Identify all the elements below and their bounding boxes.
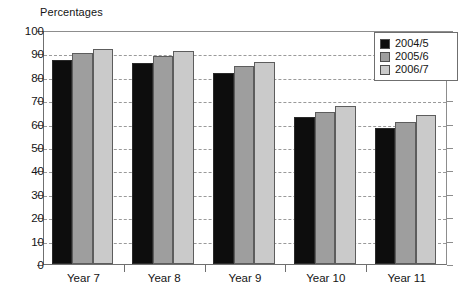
bar-year-10-2005-6 [315,112,336,264]
bar-year-7-2005-6 [72,53,93,264]
legend-label-series-2: 2005/6 [395,50,429,63]
y-axis-label-80: 80 [4,72,44,84]
legend-label-series-3: 2006/7 [395,63,429,76]
y-axis-label-20: 20 [4,212,44,224]
x-tick-2 [205,265,206,272]
bar-chart: Percentages 0102030405060708090100 Year … [0,0,463,295]
y-axis-label-90: 90 [4,48,44,60]
y-tick-right-0 [447,265,453,266]
y-tick-right-20 [447,218,453,219]
y-tick-right-30 [447,195,453,196]
legend-item-2005-6: 2005/6 [380,50,452,63]
x-axis-label-year-7: Year 7 [67,272,100,284]
y-axis-label-100: 100 [4,25,44,37]
bar-year-9-2004-5 [213,73,234,264]
y-axis-label-60: 60 [4,119,44,131]
legend-item-2004-5: 2004/5 [380,37,452,50]
y-tick-right-50 [447,148,453,149]
bar-year-7-2006-7 [93,49,114,264]
chart-title: Percentages [40,6,103,18]
bar-year-9-2005-6 [234,66,255,264]
x-axis-label-year-10: Year 10 [306,272,345,284]
legend-swatch-series-2 [380,52,390,62]
bar-year-8-2004-5 [132,63,153,264]
x-tick-1 [124,265,125,272]
x-axis-label-year-9: Year 9 [229,272,262,284]
y-axis-label-10: 10 [4,236,44,248]
bar-year-9-2006-7 [254,62,275,264]
x-tick-4 [366,265,367,272]
y-axis-label-30: 30 [4,189,44,201]
x-axis-label-year-11: Year 11 [387,272,425,284]
bar-year-11-2006-7 [416,115,437,264]
y-tick-right-40 [447,171,453,172]
bar-year-8-2005-6 [153,56,174,264]
legend-swatch-series-3 [380,65,390,75]
bar-year-11-2004-5 [375,128,396,264]
y-axis-label-70: 70 [4,95,44,107]
bar-year-10-2006-7 [335,106,356,264]
y-axis-label-40: 40 [4,165,44,177]
legend-item-2006-7: 2006/7 [380,63,452,76]
bar-year-8-2006-7 [173,51,194,264]
x-tick-3 [285,265,286,272]
legend: 2004/5 2005/6 2006/7 [374,32,458,81]
legend-label-series-1: 2004/5 [395,37,429,50]
y-tick-right-70 [447,101,453,102]
bar-year-11-2005-6 [395,122,416,264]
y-axis-label-0: 0 [4,259,44,271]
y-tick-right-60 [447,125,453,126]
bar-year-10-2004-5 [294,117,315,264]
x-axis-label-year-8: Year 8 [148,272,181,284]
bar-year-7-2004-5 [52,60,73,264]
y-axis-label-50: 50 [4,142,44,154]
legend-swatch-series-1 [380,39,390,49]
y-tick-right-10 [447,242,453,243]
